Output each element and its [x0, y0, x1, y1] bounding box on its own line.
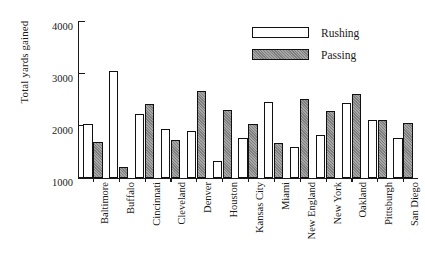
bar-rushing [161, 129, 170, 178]
bar-group [161, 22, 180, 178]
bar-passing [378, 120, 387, 178]
legend-item-rushing: Rushing [252, 24, 422, 41]
category-label-baltimore: Baltimore [97, 182, 108, 224]
bar-passing [119, 167, 128, 178]
bar-passing [93, 142, 102, 178]
bar-chart: Total yards gained 1000200030004000 Balt… [0, 0, 425, 262]
legend-label-passing: Passing [321, 49, 356, 61]
bar-rushing [368, 120, 377, 178]
category-label-kansas-city: Kansas City [252, 182, 263, 233]
bar-group [213, 22, 232, 178]
category-label-san-diego: San Diego [407, 182, 418, 226]
bar-rushing [187, 131, 196, 178]
category-label-cincinnati: Cincinnati [149, 182, 160, 226]
category-label-text: Kansas City [255, 182, 266, 233]
bar-passing [171, 140, 180, 178]
category-label-houston: Houston [226, 182, 237, 218]
bar-rushing [342, 103, 351, 178]
category-label-buffalo: Buffalo [123, 182, 134, 214]
bar-rushing [264, 102, 273, 178]
bar-group [135, 22, 154, 178]
chart-legend: Rushing Passing [252, 24, 422, 68]
legend-label-rushing: Rushing [321, 27, 359, 39]
category-label-text: San Diego [410, 182, 421, 226]
category-label-text: New York [333, 182, 344, 225]
bar-passing [352, 94, 361, 178]
category-label-text: Baltimore [100, 182, 111, 224]
bar-passing [145, 104, 154, 178]
bar-rushing [83, 124, 92, 178]
bar-passing [403, 123, 412, 178]
bar-passing [248, 124, 257, 178]
category-label-text: Cincinnati [152, 182, 163, 226]
bar-passing [274, 143, 283, 178]
x-axis-category-labels: BaltimoreBuffaloCincinnatiClevelandDenve… [78, 182, 418, 260]
category-label-text: Pittsburgh [384, 182, 395, 225]
bar-passing [223, 110, 232, 178]
category-label-text: Cleveland [177, 182, 188, 225]
category-label-new-york: New York [330, 182, 341, 225]
bar-group [83, 22, 102, 178]
bar-passing [300, 99, 309, 178]
legend-item-passing: Passing [252, 46, 422, 63]
bar-passing [326, 111, 335, 178]
rushing-swatch-icon [252, 27, 309, 38]
bar-group [109, 22, 128, 178]
category-label-denver: Denver [200, 182, 211, 213]
category-label-cleveland: Cleveland [174, 182, 185, 225]
category-label-text: Buffalo [126, 182, 137, 214]
category-label-text: New England [307, 182, 318, 239]
bar-passing [197, 91, 206, 178]
passing-swatch-icon [252, 49, 309, 60]
category-label-oakland: Oakland [355, 182, 366, 218]
bar-group [187, 22, 206, 178]
bar-rushing [290, 147, 299, 178]
category-label-new-england: New England [304, 182, 315, 239]
category-label-text: Denver [203, 182, 214, 213]
category-label-pittsburgh: Pittsburgh [381, 182, 392, 225]
y-axis-title: Total yards gained [18, 0, 30, 132]
bar-rushing [109, 71, 118, 178]
bar-rushing [135, 114, 144, 178]
bar-rushing [213, 161, 222, 178]
category-label-text: Oakland [358, 182, 369, 218]
category-label-miami: Miami [278, 182, 289, 210]
category-label-text: Houston [229, 182, 240, 218]
category-label-text: Miami [281, 182, 292, 210]
bar-rushing [238, 138, 247, 178]
bar-rushing [316, 135, 325, 178]
bar-rushing [393, 138, 402, 178]
